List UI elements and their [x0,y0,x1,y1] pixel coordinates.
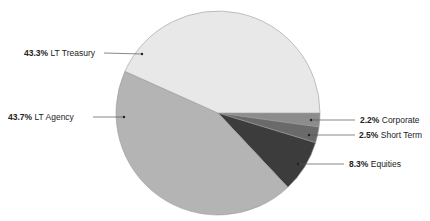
label-short-term: 2.5% Short Term [359,130,422,140]
pie-chart: 43.3% LT Treasury 43.7% LT Agency 2.2% C… [0,0,430,221]
label-lt-treasury: 43.3% LT Treasury [24,48,96,58]
label-lt-agency: 43.7% LT Agency [8,112,75,122]
label-equities: 8.3% Equities [349,159,401,169]
label-corporate: 2.2% Corporate [360,115,420,125]
pie-slices [116,11,320,215]
